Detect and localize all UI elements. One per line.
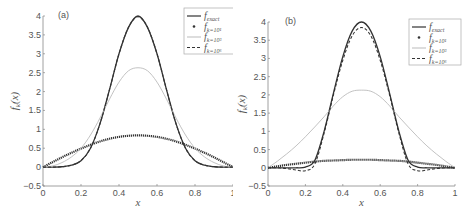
figure-b: −0.500.511.522.533.5400.20.40.60.81xfk(x… bbox=[233, 0, 466, 211]
y-tick-label: 2.5 bbox=[253, 72, 266, 82]
x-axis-label: x bbox=[358, 196, 364, 208]
panel-label: (b) bbox=[285, 16, 296, 26]
legend: fexactfk=10¹fk=10³fk=10⁶ bbox=[184, 8, 233, 54]
series-dots bbox=[43, 135, 233, 167]
y-tick-label: −0.5 bbox=[248, 181, 266, 191]
y-tick-label: 3.5 bbox=[253, 35, 266, 45]
x-tick-label: 1 bbox=[452, 188, 457, 198]
y-tick-label: 0.5 bbox=[28, 143, 41, 153]
y-tick-label: 1.5 bbox=[28, 105, 41, 115]
x-tick-label: 0.6 bbox=[151, 188, 164, 198]
y-tick-label: −0.5 bbox=[23, 181, 41, 191]
y-tick-label: 1 bbox=[36, 124, 41, 134]
x-tick-label: 0.2 bbox=[75, 188, 88, 198]
x-tick-label: 0.4 bbox=[337, 188, 350, 198]
y-tick-label: 2.5 bbox=[28, 68, 41, 78]
y-tick-label: 0.5 bbox=[253, 145, 266, 155]
y-tick-label: 4 bbox=[261, 17, 266, 27]
y-axis-label: fk(x) bbox=[235, 94, 249, 113]
y-tick-label: 4 bbox=[36, 11, 41, 21]
panel-label: (a) bbox=[58, 10, 69, 20]
y-tick-label: 3.5 bbox=[28, 30, 41, 40]
y-tick-label: 1.5 bbox=[253, 108, 266, 118]
x-tick-label: 0.8 bbox=[189, 188, 202, 198]
x-tick-label: 0.2 bbox=[299, 188, 312, 198]
y-tick-label: 3 bbox=[261, 53, 266, 63]
x-tick-label: 0.4 bbox=[113, 188, 126, 198]
y-tick-label: 2 bbox=[36, 87, 41, 97]
x-tick-label: 0.6 bbox=[374, 188, 387, 198]
x-tick-label: 0 bbox=[40, 188, 45, 198]
legend: fexactfk=10¹fk=10³fk=10⁶ bbox=[409, 19, 461, 65]
series-light bbox=[268, 90, 455, 168]
x-tick-label: 0.8 bbox=[411, 188, 424, 198]
y-tick-label: 0 bbox=[36, 162, 41, 172]
series-dots bbox=[268, 160, 455, 168]
y-axis-label: fk(x) bbox=[8, 91, 22, 110]
x-tick-label: 0 bbox=[265, 188, 270, 198]
x-axis-label: x bbox=[135, 196, 141, 208]
y-tick-label: 3 bbox=[36, 49, 41, 59]
y-tick-label: 0 bbox=[261, 163, 266, 173]
figure-a: −0.500.511.522.533.5400.20.40.60.81xfk(x… bbox=[0, 0, 233, 211]
y-tick-label: 2 bbox=[261, 90, 266, 100]
y-tick-label: 1 bbox=[261, 126, 266, 136]
